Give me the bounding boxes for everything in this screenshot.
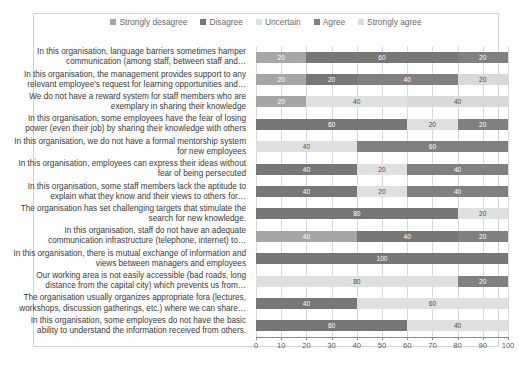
axis-tick-label: 60 bbox=[403, 341, 411, 350]
legend-item[interactable]: Strongly desagree bbox=[110, 17, 187, 27]
bar-row: 0100000 bbox=[256, 253, 508, 264]
bar-row: 0406000 bbox=[256, 298, 508, 309]
category-label: We do not have a reward system for staff… bbox=[8, 92, 246, 112]
bar-value-label: 20 bbox=[378, 188, 385, 195]
axis-tick-label: 40 bbox=[353, 341, 361, 350]
axis-tick-label: 0 bbox=[254, 341, 258, 350]
legend-item[interactable]: Strongly agree bbox=[358, 17, 421, 27]
bar-segment: 20 bbox=[458, 52, 508, 63]
bar-value-label: 40 bbox=[303, 143, 310, 150]
bar-segment: 60 bbox=[306, 52, 457, 63]
bar-segment: 80 bbox=[256, 208, 458, 219]
legend-swatch-icon bbox=[256, 19, 262, 25]
bar-value-label: 20 bbox=[429, 121, 436, 128]
bar-value-label: 20 bbox=[278, 54, 285, 61]
bar-segment: 40 bbox=[256, 141, 357, 152]
bar-value-label: 60 bbox=[328, 121, 335, 128]
bar-segment: 20 bbox=[458, 119, 508, 130]
bar-value-label: 40 bbox=[303, 166, 310, 173]
bar-segment: 20 bbox=[357, 186, 407, 197]
axis-tick bbox=[508, 337, 509, 340]
bar-value-label: 20 bbox=[479, 278, 486, 285]
bar-segment: 40 bbox=[357, 74, 458, 85]
bar-segment: 60 bbox=[256, 119, 407, 130]
bar-row: 0604000 bbox=[256, 320, 508, 331]
bar-row: 202004020 bbox=[256, 74, 508, 85]
stacked-bar: 0604000 bbox=[256, 320, 508, 331]
bar-value-label: 100 bbox=[376, 255, 387, 262]
axis-tick-label: 10 bbox=[277, 341, 285, 350]
bar-rows: 2060020020200402020040040060202000040600… bbox=[256, 46, 508, 337]
axis-tick bbox=[458, 337, 459, 340]
bar-row: 40400200 bbox=[256, 231, 508, 242]
category-label: Our working area is not easily accessibl… bbox=[8, 271, 246, 291]
axis-tick bbox=[256, 337, 257, 340]
bar-row: 06020200 bbox=[256, 119, 508, 130]
bar-segment: 40 bbox=[256, 231, 357, 242]
axis-tick bbox=[357, 337, 358, 340]
legend-item[interactable]: Agree bbox=[314, 17, 345, 27]
bar-segment: 20 bbox=[407, 119, 457, 130]
axis-tick-label: 20 bbox=[302, 341, 310, 350]
legend-label: Uncertain bbox=[265, 17, 301, 27]
axis-tick bbox=[306, 337, 307, 340]
category-label: In this organisation, language barriers … bbox=[8, 47, 246, 67]
bar-segment: 60 bbox=[357, 298, 508, 309]
bar-segment: 20 bbox=[357, 164, 407, 175]
bar-segment: 40 bbox=[407, 320, 508, 331]
bar-segment: 40 bbox=[256, 186, 357, 197]
bar-segment: 20 bbox=[458, 276, 508, 287]
bar-segment: 40 bbox=[407, 186, 508, 197]
stacked-bar: 04020400 bbox=[256, 164, 508, 175]
legend-label: Strongly agree bbox=[367, 17, 421, 27]
bar-segment: 80 bbox=[256, 276, 458, 287]
category-label: The organisation has set challenging tar… bbox=[8, 204, 246, 224]
legend-swatch-icon bbox=[314, 19, 320, 25]
bar-segment: 20 bbox=[256, 96, 306, 107]
bar-value-label: 40 bbox=[454, 188, 461, 195]
bar-value-label: 40 bbox=[454, 322, 461, 329]
bar-value-label: 80 bbox=[353, 210, 360, 217]
bar-segment: 20 bbox=[306, 74, 356, 85]
axis-tick bbox=[281, 337, 282, 340]
bar-segment: 20 bbox=[256, 52, 306, 63]
bar-value-label: 20 bbox=[479, 76, 486, 83]
bar-segment: 60 bbox=[357, 141, 508, 152]
stacked-bar: 0802000 bbox=[256, 208, 508, 219]
axis-tick-label: 70 bbox=[428, 341, 436, 350]
stacked-bar: 06020200 bbox=[256, 119, 508, 130]
category-label: In this organisation, some staff members… bbox=[8, 182, 246, 202]
stacked-bar: 04020400 bbox=[256, 186, 508, 197]
stacked-bar: 0100000 bbox=[256, 253, 508, 264]
bar-segment: 20 bbox=[458, 74, 508, 85]
bar-value-label: 40 bbox=[303, 233, 310, 240]
stacked-bar: 0406000 bbox=[256, 298, 508, 309]
value-axis: 0102030405060708090100 bbox=[256, 337, 508, 357]
legend-item[interactable]: Uncertain bbox=[256, 17, 301, 27]
bar-row: 20040040 bbox=[256, 96, 508, 107]
bar-value-label: 20 bbox=[278, 98, 285, 105]
bar-value-label: 60 bbox=[328, 322, 335, 329]
category-label: In this organisation, there is mutual ex… bbox=[8, 249, 246, 269]
axis-tick-label: 80 bbox=[453, 341, 461, 350]
chart-figure: Strongly desagreeDisagreeUncertainAgreeS… bbox=[0, 0, 519, 373]
legend-label: Strongly desagree bbox=[119, 17, 187, 27]
stacked-bar: 20040040 bbox=[256, 96, 508, 107]
category-label: The organisation usually organizes appro… bbox=[8, 293, 246, 313]
axis-tick bbox=[407, 337, 408, 340]
bar-value-label: 40 bbox=[404, 76, 411, 83]
bar-value-label: 60 bbox=[378, 54, 385, 61]
chart-legend: Strongly desagreeDisagreeUncertainAgreeS… bbox=[33, 17, 499, 27]
bar-value-label: 20 bbox=[328, 76, 335, 83]
bar-row: 04020400 bbox=[256, 164, 508, 175]
bar-value-label: 80 bbox=[353, 278, 360, 285]
bar-value-label: 40 bbox=[454, 166, 461, 173]
bar-value-label: 20 bbox=[278, 76, 285, 83]
category-label: In this organisation, employees can expr… bbox=[8, 159, 246, 179]
bar-value-label: 20 bbox=[378, 166, 385, 173]
bar-row: 20600200 bbox=[256, 52, 508, 63]
legend-item[interactable]: Disagree bbox=[200, 17, 243, 27]
stacked-bar: 0080200 bbox=[256, 276, 508, 287]
category-label: In this organisation, the management pro… bbox=[8, 70, 246, 90]
legend-label: Agree bbox=[323, 17, 345, 27]
